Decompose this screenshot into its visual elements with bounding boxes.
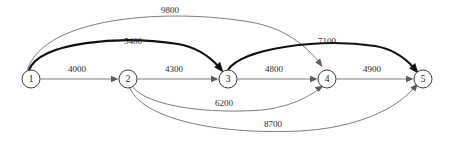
edge-2-3-label: 4300	[165, 64, 184, 74]
edge-1-3-label: 5400	[124, 36, 143, 46]
node-4[interactable]: 4	[318, 70, 336, 88]
edge-2-3-arrowhead	[211, 76, 219, 82]
edge-4-5-label: 4900	[363, 64, 382, 74]
edge-2-5[interactable]: 8700	[130, 84, 418, 132]
node-3[interactable]: 3	[219, 70, 237, 88]
edge-1-2-label: 4000	[68, 64, 87, 74]
edge-1-4-label: 9800	[161, 5, 180, 15]
node-2-label: 2	[126, 74, 131, 84]
node-4-label: 4	[325, 74, 330, 84]
edge-3-5[interactable]: 7100	[228, 36, 419, 73]
edge-3-5-label: 7100	[318, 36, 337, 46]
edge-3-4[interactable]: 4800	[238, 64, 318, 82]
node-3-label: 3	[226, 74, 231, 84]
edge-4-5[interactable]: 4900	[337, 64, 414, 82]
node-2[interactable]: 2	[119, 70, 137, 88]
edge-2-4[interactable]: 6200	[133, 86, 324, 112]
edge-1-4-arrowhead	[315, 59, 322, 67]
edge-2-3[interactable]: 4300	[138, 64, 219, 82]
node-5[interactable]: 5	[414, 70, 432, 88]
edge-1-2-arrowhead	[111, 76, 119, 82]
edge-1-3[interactable]: 5400	[29, 36, 224, 72]
edge-1-2[interactable]: 4000	[41, 64, 119, 82]
edge-4-5-arrowhead	[406, 76, 414, 82]
edge-1-4[interactable]: 9800	[27, 5, 323, 70]
node-1[interactable]: 1	[22, 70, 40, 88]
edge-2-4-label: 6200	[215, 98, 234, 108]
node-5-label: 5	[421, 74, 426, 84]
edge-3-4-label: 4800	[265, 64, 284, 74]
edge-2-5-label: 8700	[264, 119, 283, 129]
node-1-label: 1	[29, 74, 34, 84]
edge-3-4-arrowhead	[310, 76, 318, 82]
graph-svg: 4000 4300 4800 4900 9800	[0, 0, 452, 142]
graph-canvas: 4000 4300 4800 4900 9800	[0, 0, 452, 142]
